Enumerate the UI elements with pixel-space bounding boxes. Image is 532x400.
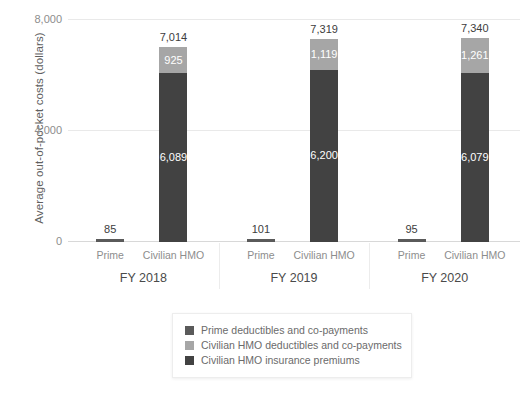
bar-total-label: 7,319	[310, 23, 338, 35]
bar-total-label: 85	[104, 223, 116, 235]
gridline-4000: 4,000	[68, 130, 520, 131]
chart-legend: Prime deductibles and co-paymentsCivilia…	[172, 313, 412, 378]
x-tick-label-civilian-hmo: Civilian HMO	[143, 249, 204, 261]
bar-segment[interactable]: 925	[159, 47, 187, 73]
x-tick-label-prime: Prime	[96, 249, 123, 261]
gridline-0: 0	[68, 241, 520, 242]
x-tick-label-prime: Prime	[398, 249, 425, 261]
gridline-8000: 8,000	[68, 19, 520, 20]
bar-segment[interactable]: 6,200	[310, 70, 338, 242]
legend-swatch-icon	[185, 356, 194, 365]
bar[interactable]: 6,0791,2617,340	[461, 38, 489, 242]
bar-total-label: 95	[405, 223, 417, 235]
x-group-separator	[219, 243, 220, 289]
bar-total-label: 7,340	[461, 22, 489, 34]
legend-swatch-icon	[185, 326, 194, 335]
x-group-label: FY 2020	[421, 271, 468, 285]
x-tick-label-prime: Prime	[247, 249, 274, 261]
bar-segment[interactable]: 6,089	[159, 73, 187, 242]
bar-segment-value-label: 925	[164, 55, 182, 66]
bar[interactable]: 6,0899257,014	[159, 47, 187, 242]
legend-swatch-icon	[185, 341, 194, 350]
bar[interactable]: 85	[96, 239, 124, 242]
legend-label: Prime deductibles and co-payments	[201, 325, 368, 336]
plot-area: 04,0008,000856,0899257,0141016,2001,1197…	[68, 20, 520, 242]
x-group-separator	[369, 243, 370, 289]
bar-segment-value-label: 1,261	[461, 50, 489, 61]
legend-item[interactable]: Civilian HMO insurance premiums	[185, 353, 399, 368]
bar-total-label: 101	[252, 223, 270, 235]
stacked-bar-chart: Average out-of-pocket costs (dollars) 04…	[0, 0, 532, 400]
legend-label: Civilian HMO insurance premiums	[201, 355, 360, 366]
x-group-label: FY 2019	[270, 271, 317, 285]
legend-label: Civilian HMO deductibles and co-payments	[201, 340, 402, 351]
bar-segment-value-label: 6,079	[461, 152, 489, 163]
bar[interactable]: 6,2001,1197,319	[310, 39, 338, 242]
legend-item[interactable]: Prime deductibles and co-payments	[185, 323, 399, 338]
bar-total-label: 7,014	[160, 31, 188, 43]
x-tick-label-civilian-hmo: Civilian HMO	[444, 249, 505, 261]
bar-segment-value-label: 6,089	[160, 152, 188, 163]
bar-segment[interactable]: 1,119	[310, 39, 338, 70]
x-tick-label-civilian-hmo: Civilian HMO	[293, 249, 354, 261]
bar-segment-value-label: 6,200	[310, 150, 338, 161]
bar[interactable]: 101	[247, 239, 275, 242]
bar-segment[interactable]	[398, 239, 426, 242]
x-axis: PrimeCivilian HMOPrimeCivilian HMOPrimeC…	[68, 243, 520, 298]
bar-segment[interactable]: 6,079	[461, 73, 489, 242]
bar-segment[interactable]: 1,261	[461, 38, 489, 73]
bar-segment[interactable]	[247, 239, 275, 242]
y-tick-label: 8,000	[34, 13, 62, 25]
bar-segment[interactable]	[96, 239, 124, 242]
y-tick-label: 4,000	[34, 124, 62, 136]
legend-item[interactable]: Civilian HMO deductibles and co-payments	[185, 338, 399, 353]
bar-segment-value-label: 1,119	[311, 49, 338, 60]
y-tick-label: 0	[56, 235, 62, 247]
bar[interactable]: 95	[398, 239, 426, 242]
x-group-label: FY 2018	[120, 271, 167, 285]
